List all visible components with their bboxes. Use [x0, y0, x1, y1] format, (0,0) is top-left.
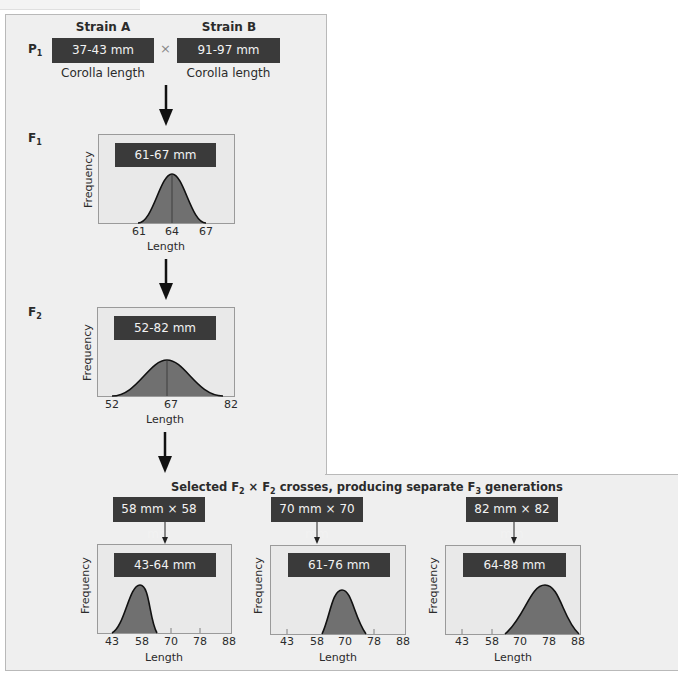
- f1-tick: 61: [132, 225, 146, 238]
- f3-tick: 58: [135, 635, 149, 648]
- f3-tick: 43: [455, 635, 469, 648]
- strain-a-caption: Corolla length: [52, 66, 154, 80]
- top-strip: [0, 0, 140, 10]
- arrow-down-icon: [312, 522, 322, 544]
- f3-tick: 70: [338, 635, 352, 648]
- f3-x-axis-label-3: Length: [494, 651, 532, 664]
- arrow-down-icon: [157, 432, 173, 474]
- f1-y-axis-label: Frequency: [82, 151, 95, 208]
- f3-y-axis-label-2: Frequency: [252, 557, 265, 614]
- strain-b-range: 91-97 mm: [177, 38, 280, 63]
- f1-x-axis-label: Length: [147, 240, 185, 253]
- f3-cross-1-label: 58 mm × 58 mm: [113, 497, 205, 522]
- f3-tick: 78: [542, 635, 556, 648]
- f3-y-axis-label-1: Frequency: [79, 557, 92, 614]
- f3-tick: 58: [310, 635, 324, 648]
- f2-x-axis-label: Length: [146, 413, 184, 426]
- f3-tick: 43: [280, 635, 294, 648]
- f1-curve: [98, 134, 235, 224]
- f3-tick: 88: [222, 635, 236, 648]
- f3-cross-3-label: 82 mm × 82 mm: [466, 497, 558, 522]
- f2-tick: 52: [105, 398, 119, 411]
- strain-a-range: 37-43 mm: [52, 38, 154, 63]
- arrow-down-icon: [158, 85, 174, 127]
- f3-tick: 88: [396, 635, 410, 648]
- f2-y-axis-label: Frequency: [81, 324, 94, 381]
- f3-tick: 58: [485, 635, 499, 648]
- f3-cross-2-label: 70 mm × 70 mm: [271, 497, 363, 522]
- arrow-down-icon: [160, 522, 170, 544]
- f3-curve-3: [445, 545, 581, 635]
- f3-tick: 78: [367, 635, 381, 648]
- cross-symbol: ×: [160, 41, 171, 56]
- strain-a-label: Strain A: [51, 20, 155, 34]
- f3-tick: 70: [513, 635, 527, 648]
- f3-tick: 78: [193, 635, 207, 648]
- f3-curve-1: [97, 544, 232, 634]
- f3-curve-2: [270, 545, 406, 635]
- strain-b-caption: Corolla length: [177, 66, 280, 80]
- arrow-down-icon: [509, 522, 519, 544]
- f2-tick: 67: [164, 398, 178, 411]
- f2-curve: [97, 307, 235, 397]
- f3-x-axis-label-2: Length: [319, 651, 357, 664]
- arrow-down-icon: [158, 259, 174, 301]
- f3-tick: 70: [164, 635, 178, 648]
- f3-x-axis-label-1: Length: [145, 651, 183, 664]
- generation-p1: P1: [28, 42, 42, 58]
- f3-y-axis-label-3: Frequency: [427, 557, 440, 614]
- strain-b-label: Strain B: [177, 20, 281, 34]
- f2-tick: 82: [224, 398, 238, 411]
- generation-f1: F1: [28, 131, 42, 147]
- f3-tick: 43: [105, 635, 119, 648]
- f1-tick: 64: [165, 225, 179, 238]
- f3-tick: 88: [571, 635, 585, 648]
- f1-tick: 67: [199, 225, 213, 238]
- generation-f2: F2: [28, 305, 42, 321]
- f3-title: Selected F2 × F2 crosses, producing sepa…: [171, 480, 563, 496]
